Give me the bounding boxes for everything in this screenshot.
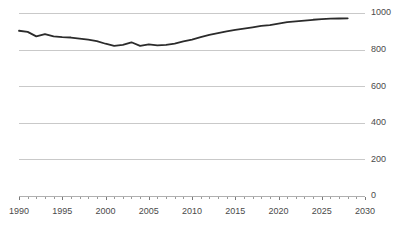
x-axis-tick-labels: 199019952000200520102015202020252030 <box>9 206 375 216</box>
x-axis <box>19 197 366 201</box>
y-tick-label-400: 400 <box>371 117 386 127</box>
x-tick-label-2000: 2000 <box>95 206 115 216</box>
series-line-1 <box>19 18 348 46</box>
line-chart: 02004006008001000 1990199520002005201020… <box>0 0 405 232</box>
data-series <box>19 18 348 46</box>
y-tick-label-1000: 1000 <box>371 7 391 17</box>
chart-canvas: 02004006008001000 1990199520002005201020… <box>0 0 405 232</box>
x-tick-label-2005: 2005 <box>139 206 159 216</box>
y-axis-tick-labels: 02004006008001000 <box>371 7 391 200</box>
x-tick-label-1995: 1995 <box>52 206 72 216</box>
y-tick-label-200: 200 <box>371 154 386 164</box>
y-tick-label-0: 0 <box>371 190 376 200</box>
x-tick-label-2010: 2010 <box>182 206 202 216</box>
x-tick-label-2025: 2025 <box>312 206 332 216</box>
x-tick-label-2020: 2020 <box>268 206 288 216</box>
x-tick-label-2030: 2030 <box>355 206 375 216</box>
x-tick-label-2015: 2015 <box>225 206 245 216</box>
y-tick-label-600: 600 <box>371 81 386 91</box>
gridlines <box>19 14 365 160</box>
x-tick-label-1990: 1990 <box>9 206 29 216</box>
y-tick-label-800: 800 <box>371 44 386 54</box>
